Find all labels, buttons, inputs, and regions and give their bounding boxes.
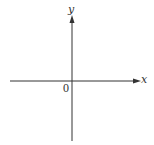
y-axis-arrow-icon xyxy=(70,15,75,23)
x-axis-arrow-icon xyxy=(133,79,141,84)
coordinate-diagram: y x 0 xyxy=(0,0,154,145)
origin-label: 0 xyxy=(63,82,69,94)
x-axis-label: x xyxy=(141,74,147,85)
axes-graphic xyxy=(0,0,154,145)
y-axis-label: y xyxy=(68,4,74,15)
